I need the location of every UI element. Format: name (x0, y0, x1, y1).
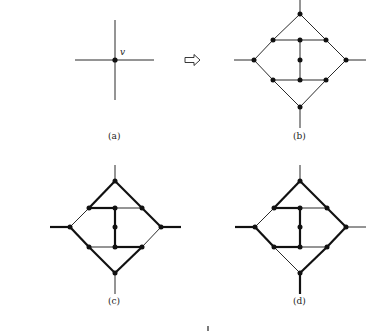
panel-b: (b) (234, 0, 366, 141)
panel-c: (c) (50, 165, 181, 306)
panel-a: v (a) (75, 20, 154, 141)
caption-d: (d) (293, 296, 306, 306)
caption-b: (b) (293, 131, 306, 141)
diagram-figure: v (a) (b) (0, 0, 369, 331)
vertex-v (112, 57, 117, 62)
caption-c: (c) (108, 296, 120, 306)
caption-a: (a) (108, 131, 120, 141)
transform-arrow-icon (185, 55, 200, 66)
vertex-label: v (120, 47, 125, 57)
panel-d: (d) (235, 165, 366, 306)
